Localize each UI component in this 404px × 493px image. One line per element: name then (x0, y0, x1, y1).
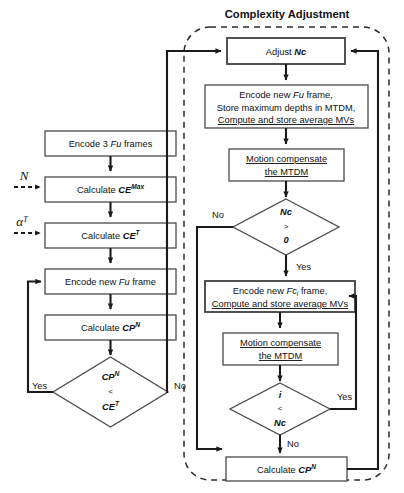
decision-nc-line1: Nc (280, 207, 293, 217)
input-label-n: N (19, 168, 30, 183)
box-calculate-ce-t-label: Calculate CET (81, 229, 140, 241)
decision-i-line1: i (279, 390, 282, 400)
box-encode-3-fu-frames-label: Encode 3 Fu frames (69, 139, 153, 149)
box-calculate-cp-n-label: Calculate CPN (81, 321, 140, 333)
branch-label-no-nc: No (212, 210, 224, 220)
box-motion2-line1: Motion compensate (240, 338, 321, 348)
branch-label-yes-nc: Yes (296, 262, 312, 272)
box-motion1-line1: Motion compensate (246, 154, 327, 164)
decision-cpn-lt-cet-op: < (108, 387, 113, 396)
box-encode-fu-line1: Encode new Fu frame, (239, 90, 333, 100)
box-encode-fc-line2: Compute and store average MVs (212, 299, 349, 309)
box-encode-fu-line3: Compute and store average MVs (218, 115, 355, 125)
flowchart-diagram: Complexity Adjustment Encode 3 Fu frames… (0, 0, 404, 493)
box-calculate-cp-n-right-label: Calculate CPN (257, 463, 316, 475)
branch-label-no-left: No (174, 381, 186, 391)
region-title: Complexity Adjustment (225, 8, 350, 20)
box-encode-new-fu-frame-label: Encode new Fu frame (65, 277, 156, 287)
box-motion2-line2: the MTDM (259, 351, 302, 361)
input-label-alpha: αT (16, 214, 28, 229)
box-motion1-line2: the MTDM (265, 167, 308, 177)
branch-label-yes-i: Yes (337, 392, 353, 402)
decision-i-op: < (278, 404, 283, 413)
decision-nc-line3: 0 (283, 235, 289, 245)
box-encode-fc-line1: Encode new Fci frame, (233, 286, 328, 297)
branch-label-yes-left: Yes (32, 381, 48, 391)
box-encode-fu-line2: Store maximum depths in MTDM, (217, 103, 355, 113)
box-adjust-nc-label: Adjust Nc (266, 47, 307, 57)
decision-i-line3: Nc (274, 418, 287, 428)
branch-label-no-i: No (287, 439, 299, 449)
decision-nc-op: > (284, 222, 289, 231)
